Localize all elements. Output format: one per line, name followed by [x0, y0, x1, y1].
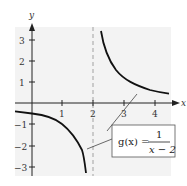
formula-lhs: g(x) =: [118, 136, 149, 147]
x-axis-label: x: [181, 98, 186, 108]
y-tick-neg2: −2: [14, 142, 27, 152]
y-axis-label: y: [28, 10, 35, 20]
y-tick-3: 3: [19, 36, 25, 46]
x-tick-2: 2: [90, 109, 96, 119]
x-axis-arrow-icon: [172, 100, 180, 106]
formula-denominator: x − 2: [149, 144, 176, 155]
x-tick-1: 1: [59, 109, 65, 119]
y-tick-1: 1: [19, 78, 25, 88]
formula-numerator: 1: [156, 129, 162, 140]
y-tick-neg1: −1: [14, 120, 27, 130]
y-tick-neg3: −3: [14, 163, 28, 173]
x-tick-4: 4: [152, 109, 158, 119]
function-graph: x y 1 2 3 4 3 2 1 −1 −2 −3 g(x) = 1 x − …: [0, 0, 187, 186]
y-tick-2: 2: [19, 57, 25, 67]
